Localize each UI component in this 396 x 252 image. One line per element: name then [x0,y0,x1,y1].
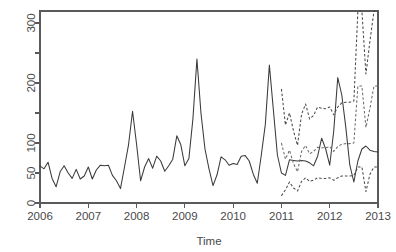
x-axis-tick-label: 2010 [220,210,246,222]
y-axis-tick-label: 200 [25,73,37,92]
x-axis-tick-label: 2013 [365,210,391,222]
y-axis-tick-label: 100 [25,133,37,152]
y-axis-tick-label: 0 [25,200,37,206]
x-axis-tick-label: 2006 [27,210,53,222]
chart-container: 050100200300 200620072008200920102011201… [0,0,396,252]
y-axis-tick-label: 50 [25,167,37,180]
x-axis-title: Time [196,235,221,247]
time-series-forecast-chart: 050100200300 200620072008200920102011201… [0,0,396,252]
x-axis-tick-label: 2007 [75,210,101,222]
x-axis-tick-label: 2009 [172,210,198,222]
x-axis-tick-label: 2008 [124,210,150,222]
x-axis-tick-label: 2012 [317,210,343,222]
x-axis-tick-label: 2011 [269,210,294,222]
y-axis-tick-label: 300 [25,13,37,32]
